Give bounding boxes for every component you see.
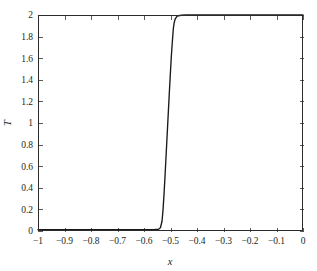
x-tick-label-1: −0.9 xyxy=(56,236,73,246)
y-tick-label-3: 0.6 xyxy=(21,162,33,172)
x-tick-label-5: −0.5 xyxy=(162,236,179,246)
x-tick-label-9: −0.1 xyxy=(268,236,285,246)
x-tick-label-10: 0 xyxy=(301,236,306,246)
x-axis-title: x xyxy=(167,256,173,267)
y-tick-label-8: 1.6 xyxy=(21,54,33,64)
chart-figure: 00.20.40.60.811.21.41.61.82 −1−0.9−0.8−0… xyxy=(0,0,317,271)
y-tick-label-10: 2 xyxy=(28,10,33,20)
x-tick-label-4: −0.6 xyxy=(135,236,152,246)
y-tick-label-1: 0.2 xyxy=(21,205,33,215)
y-tick-label-5: 1 xyxy=(28,118,33,128)
x-tick-label-7: −0.3 xyxy=(215,236,232,246)
line-chart-canvas: 00.20.40.60.811.21.41.61.82 −1−0.9−0.8−0… xyxy=(0,0,317,271)
y-tick-label-6: 1.2 xyxy=(21,97,33,107)
y-tick-label-0: 0 xyxy=(28,226,33,236)
y-tick-label-4: 0.8 xyxy=(21,140,33,150)
x-tick-label-2: −0.8 xyxy=(82,236,99,246)
y-tick-label-9: 1.8 xyxy=(21,32,33,42)
x-tick-label-0: −1 xyxy=(33,236,43,246)
x-tick-label-6: −0.4 xyxy=(188,236,205,246)
x-tick-label-8: −0.2 xyxy=(241,236,258,246)
y-tick-label-2: 0.4 xyxy=(21,183,33,193)
y-tick-label-7: 1.4 xyxy=(21,75,33,85)
x-tick-label-3: −0.7 xyxy=(109,236,126,246)
